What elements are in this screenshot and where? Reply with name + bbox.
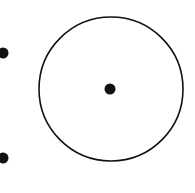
geometry-diagram bbox=[0, 0, 195, 193]
background bbox=[0, 0, 195, 193]
center-point bbox=[105, 84, 116, 95]
